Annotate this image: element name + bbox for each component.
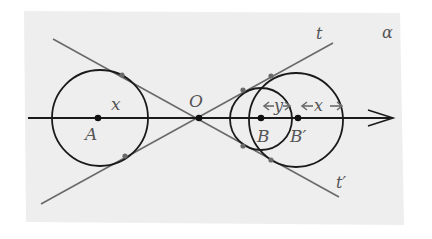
label-A: A	[83, 124, 97, 144]
tangency-point	[240, 143, 245, 148]
figure-stage: A x O B B′ y x t t′ α	[0, 0, 432, 239]
tangency-point	[268, 73, 273, 78]
tangency-point	[122, 153, 127, 158]
label-y: y	[273, 96, 284, 115]
label-O: O	[189, 91, 203, 111]
label-t-prime: t′	[336, 173, 346, 192]
label-x-A: x	[111, 94, 121, 114]
point-A	[95, 115, 102, 122]
point-O	[196, 115, 203, 122]
label-B: B	[256, 126, 270, 146]
point-B-prime	[295, 115, 302, 122]
tangency-point	[268, 157, 273, 162]
label-t: t	[316, 24, 323, 43]
tangency-point	[240, 87, 245, 92]
label-B-prime: B′	[289, 126, 306, 146]
point-B	[258, 115, 265, 122]
tangency-point	[119, 72, 124, 77]
label-x-B-prime: x	[314, 96, 323, 115]
geometry-diagram: A x O B B′ y x t t′ α	[0, 0, 432, 239]
label-alpha: α	[382, 23, 393, 42]
